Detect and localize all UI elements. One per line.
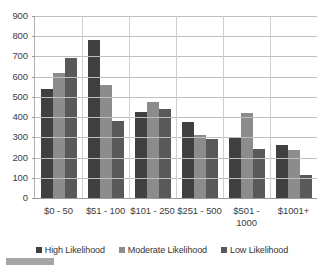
y-axis-tick-label: 900 xyxy=(0,11,32,21)
category-separator xyxy=(82,16,83,198)
x-axis-tick-label: $51 - 100 xyxy=(82,200,129,238)
chart-legend: High LikelihoodModerate LikelihoodLow Li… xyxy=(0,242,324,258)
bar-group xyxy=(223,16,270,198)
bar[interactable] xyxy=(229,137,241,198)
x-axis-tick-label: $0 - 50 xyxy=(35,200,82,238)
y-axis-tick-label: 100 xyxy=(0,173,32,183)
y-axis-tick-label: 300 xyxy=(0,133,32,143)
bar-group xyxy=(270,16,317,198)
y-axis-tick-label: 700 xyxy=(0,52,32,62)
category-separator xyxy=(176,16,177,198)
legend-swatch-icon xyxy=(221,247,227,253)
legend-item[interactable]: High Likelihood xyxy=(36,246,105,255)
y-axis-tickmark xyxy=(32,77,35,78)
legend-item[interactable]: Low Likelihood xyxy=(221,246,288,255)
x-axis-tick-label: $251 - 500 xyxy=(176,200,223,238)
legend-label: High Likelihood xyxy=(45,246,105,255)
bar-group xyxy=(176,16,223,198)
bar-group xyxy=(83,16,130,198)
bar[interactable] xyxy=(112,121,124,198)
y-axis-tick-label: 400 xyxy=(0,112,32,122)
plot-wrapper: 9008007006005004003002001000 xyxy=(0,0,324,200)
bar[interactable] xyxy=(159,109,171,198)
y-axis-tickmark xyxy=(32,97,35,98)
bar[interactable] xyxy=(100,85,112,198)
y-axis-tickmark xyxy=(32,198,35,199)
y-axis-tick-label: 200 xyxy=(0,153,32,163)
category-separator xyxy=(223,16,224,198)
y-axis-tickmark xyxy=(32,16,35,17)
y-axis-tickmark xyxy=(32,117,35,118)
legend-label: Moderate Likelihood xyxy=(128,246,207,255)
plot-area xyxy=(34,16,317,198)
y-axis-tickmark xyxy=(32,56,35,57)
bar-group xyxy=(36,16,83,198)
bar[interactable] xyxy=(182,122,194,198)
category-separator xyxy=(129,16,130,198)
legend-item[interactable]: Moderate Likelihood xyxy=(119,246,207,255)
x-axis-tick-label: $501 - 1000 xyxy=(223,200,270,238)
category-separator xyxy=(270,16,271,198)
bar[interactable] xyxy=(53,73,65,198)
corner-artifact xyxy=(6,258,54,265)
bar[interactable] xyxy=(206,139,218,198)
bar[interactable] xyxy=(88,40,100,198)
y-axis-tickmark xyxy=(32,178,35,179)
bar-chart: 9008007006005004003002001000 $0 - 50$51 … xyxy=(0,0,324,268)
legend-swatch-icon xyxy=(36,247,42,253)
y-axis: 9008007006005004003002001000 xyxy=(0,0,32,200)
x-axis-tick-label: $1001+ xyxy=(270,200,317,238)
x-axis: $0 - 50$51 - 100$101 - 250$251 - 500$501… xyxy=(35,200,317,238)
x-axis-tick-label: $101 - 250 xyxy=(129,200,176,238)
y-axis-tick-label: 0 xyxy=(0,193,32,203)
y-axis-tick-label: 600 xyxy=(0,72,32,82)
axis-baseline xyxy=(35,198,317,199)
y-axis-tickmark xyxy=(32,137,35,138)
y-axis-tickmark xyxy=(32,158,35,159)
bar[interactable] xyxy=(41,89,53,198)
legend-swatch-icon xyxy=(119,247,125,253)
bar[interactable] xyxy=(276,145,288,198)
bar[interactable] xyxy=(135,112,147,198)
legend-label: Low Likelihood xyxy=(230,246,288,255)
bar[interactable] xyxy=(241,113,253,198)
bar[interactable] xyxy=(194,135,206,198)
y-axis-tick-label: 800 xyxy=(0,31,32,41)
y-axis-tickmark xyxy=(32,36,35,37)
y-axis-tick-label: 500 xyxy=(0,92,32,102)
bar-group xyxy=(130,16,177,198)
